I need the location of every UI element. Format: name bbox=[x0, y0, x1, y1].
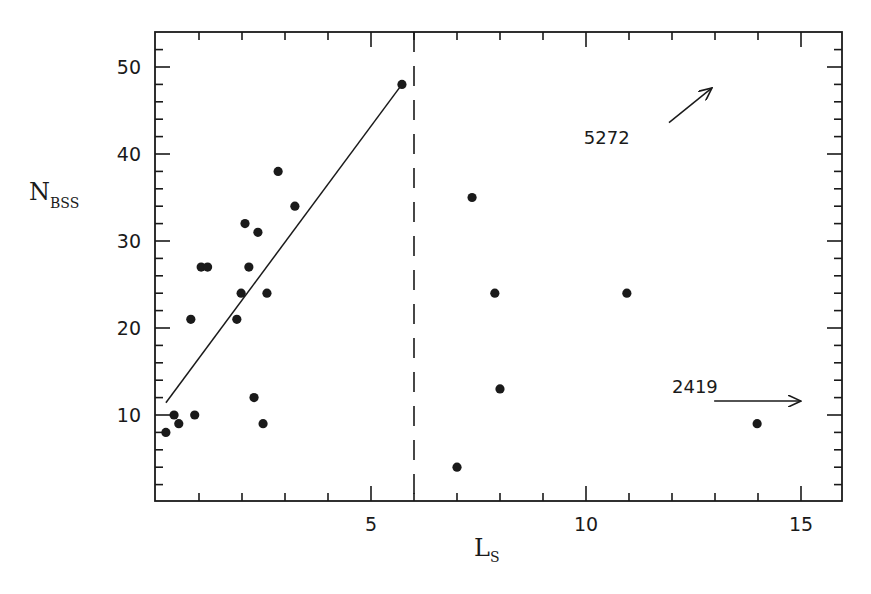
data-point bbox=[169, 410, 178, 419]
data-point bbox=[490, 289, 499, 298]
data-point bbox=[237, 289, 246, 298]
x-axis-label: LS bbox=[474, 534, 500, 565]
data-point bbox=[249, 393, 258, 402]
data-point bbox=[240, 219, 249, 228]
data-point bbox=[161, 428, 170, 437]
y-tick-label: 30 bbox=[117, 230, 141, 252]
data-point bbox=[397, 80, 406, 89]
y-axis-ticks bbox=[155, 50, 842, 485]
data-point bbox=[262, 289, 271, 298]
x-tick-labels: 51015 bbox=[365, 513, 813, 535]
data-points bbox=[161, 80, 761, 472]
data-point bbox=[452, 463, 461, 472]
data-point bbox=[232, 315, 241, 324]
data-point bbox=[244, 263, 253, 272]
annotation-label: 2419 bbox=[672, 376, 718, 397]
y-tick-label: 20 bbox=[117, 317, 141, 339]
y-axis-label: NBSS bbox=[29, 178, 79, 211]
data-point bbox=[274, 167, 283, 176]
fit-line bbox=[166, 84, 402, 402]
y-tick-label: 10 bbox=[117, 404, 141, 426]
data-point bbox=[203, 263, 212, 272]
x-tick-label: 10 bbox=[574, 513, 598, 535]
arrow-icon bbox=[669, 88, 712, 123]
x-axis-ticks bbox=[199, 32, 801, 501]
y-tick-label: 40 bbox=[117, 143, 141, 165]
data-point bbox=[290, 202, 299, 211]
axes-box bbox=[155, 32, 842, 501]
annotation-label: 5272 bbox=[584, 127, 630, 148]
data-point bbox=[253, 228, 262, 237]
data-point bbox=[258, 419, 267, 428]
x-tick-label: 15 bbox=[789, 513, 813, 535]
plot-frame bbox=[155, 32, 842, 501]
y-tick-labels: 1020304050 bbox=[117, 56, 141, 426]
data-point bbox=[753, 419, 762, 428]
y-tick-label: 50 bbox=[117, 56, 141, 78]
data-point bbox=[190, 410, 199, 419]
data-point bbox=[186, 315, 195, 324]
data-point bbox=[467, 193, 476, 202]
annotations: 52722419 bbox=[584, 88, 801, 401]
data-point bbox=[174, 419, 183, 428]
scatter-chart: 51015 1020304050 52722419 LS NBSS bbox=[0, 0, 871, 594]
x-tick-label: 5 bbox=[365, 513, 377, 535]
data-point bbox=[622, 289, 631, 298]
data-point bbox=[495, 384, 504, 393]
